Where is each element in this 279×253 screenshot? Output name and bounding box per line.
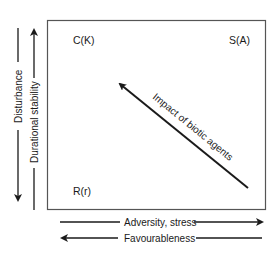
durational-stability-axis: Durational stability: [29, 30, 40, 210]
favourableness-label: Favourableness: [124, 233, 195, 244]
corner-label-top-right: S(A): [229, 34, 250, 46]
corner-label-top-left: C(K): [73, 34, 95, 46]
disturbance-label: Disturbance: [13, 69, 24, 123]
durational-stability-label: Durational stability: [29, 81, 40, 163]
favourableness-axis: Favourableness: [62, 233, 262, 244]
disturbance-axis: Disturbance: [13, 28, 24, 200]
biotic-impact-label: Impact of biotic agents: [151, 91, 236, 163]
adversity-label: Adversity, stress: [124, 217, 197, 228]
biotic-impact-arrow: [120, 84, 248, 188]
adversity-axis: Adversity, stress: [60, 217, 262, 228]
diagram-frame: [48, 21, 266, 210]
strategy-diagram: C(K) S(A) R(r) Impact of biotic agents D…: [0, 0, 279, 253]
corner-label-bottom-left: R(r): [73, 185, 91, 197]
